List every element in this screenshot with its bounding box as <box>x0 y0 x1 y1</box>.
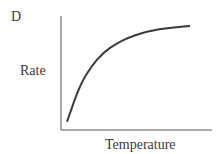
chart-plot <box>0 0 222 154</box>
rate-curve <box>67 26 190 122</box>
